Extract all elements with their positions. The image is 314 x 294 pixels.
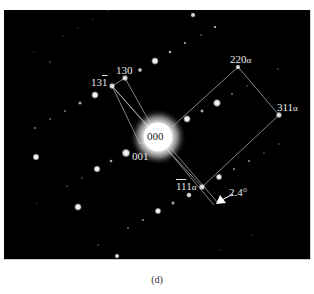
diffraction-spot <box>121 148 130 157</box>
label-311-alpha-sub: α <box>293 103 298 113</box>
diffraction-spot <box>109 83 116 90</box>
diffraction-spot <box>107 10 109 12</box>
diffraction-spot <box>278 143 280 145</box>
diffraction-spot <box>219 249 221 251</box>
label-130: 130 <box>116 65 133 76</box>
label-111-alpha-sub: α <box>192 182 197 192</box>
diffraction-spot <box>200 34 202 36</box>
diffraction-spot <box>109 159 113 163</box>
indexing-line <box>202 115 279 187</box>
diffraction-spot <box>33 51 35 53</box>
diffraction-spot <box>216 174 223 181</box>
diffraction-spot <box>246 85 248 87</box>
diffraction-spot <box>183 41 186 44</box>
diffraction-spot <box>36 202 38 204</box>
label-311-number: 311 <box>277 101 293 113</box>
diffraction-spot <box>49 118 51 120</box>
diffraction-spot <box>168 50 172 54</box>
diffraction-spot <box>251 234 253 236</box>
diffraction-spot <box>199 184 206 191</box>
diffraction-spot <box>190 12 195 17</box>
diffraction-spot <box>171 201 175 205</box>
diffraction-spot <box>213 25 216 28</box>
label-220-alpha: 220α <box>230 54 251 66</box>
diffraction-spot <box>151 57 159 65</box>
diffraction-spot <box>155 208 162 215</box>
diffraction-spot <box>34 127 36 129</box>
label-13-1bar: 131 <box>91 77 108 88</box>
diffraction-spot <box>91 91 99 99</box>
figure-caption: (d) <box>0 274 314 285</box>
label-111-overline: 11 <box>176 180 186 192</box>
diffraction-spot <box>183 115 191 123</box>
diffraction-spot <box>93 165 100 172</box>
label-13-1bar-base: 13 <box>91 76 102 88</box>
diffraction-spot <box>62 35 64 37</box>
label-311-alpha: 311α <box>277 102 298 114</box>
diffraction-spot <box>49 61 51 63</box>
label-13-1bar-overline: 1 <box>102 76 108 88</box>
indexing-line <box>238 67 279 115</box>
diffraction-spot <box>127 227 129 229</box>
diffraction-spot <box>64 110 66 112</box>
diffraction-spot <box>248 160 251 163</box>
label-001: 001 <box>132 151 149 162</box>
label-1bar1bar1-alpha: 111α <box>176 181 196 193</box>
diffraction-spot <box>277 68 279 70</box>
diffraction-spot <box>142 219 145 222</box>
diffraction-spot <box>92 18 94 20</box>
diffraction-spot <box>32 153 39 160</box>
diffraction-spot <box>77 27 79 29</box>
diffraction-spot <box>74 203 82 211</box>
diffraction-spot <box>263 152 265 154</box>
diffraction-spot <box>66 185 68 187</box>
diffraction-spot <box>233 168 236 171</box>
diffraction-pattern <box>0 0 314 294</box>
diffraction-spot <box>138 68 143 73</box>
diffraction-spot <box>231 93 233 95</box>
label-220-alpha-sub: α <box>247 55 252 65</box>
indexing-line <box>172 67 238 127</box>
diffraction-spot <box>81 177 83 179</box>
diffraction-spot <box>78 101 82 105</box>
diffraction-spot <box>114 253 119 258</box>
diffraction-spot <box>213 99 221 107</box>
label-angle: 2.4° <box>229 187 247 198</box>
diffraction-spot <box>97 244 99 246</box>
label-000: 000 <box>147 131 164 142</box>
label-220-number: 220 <box>230 53 247 65</box>
diffraction-spot <box>200 109 204 113</box>
